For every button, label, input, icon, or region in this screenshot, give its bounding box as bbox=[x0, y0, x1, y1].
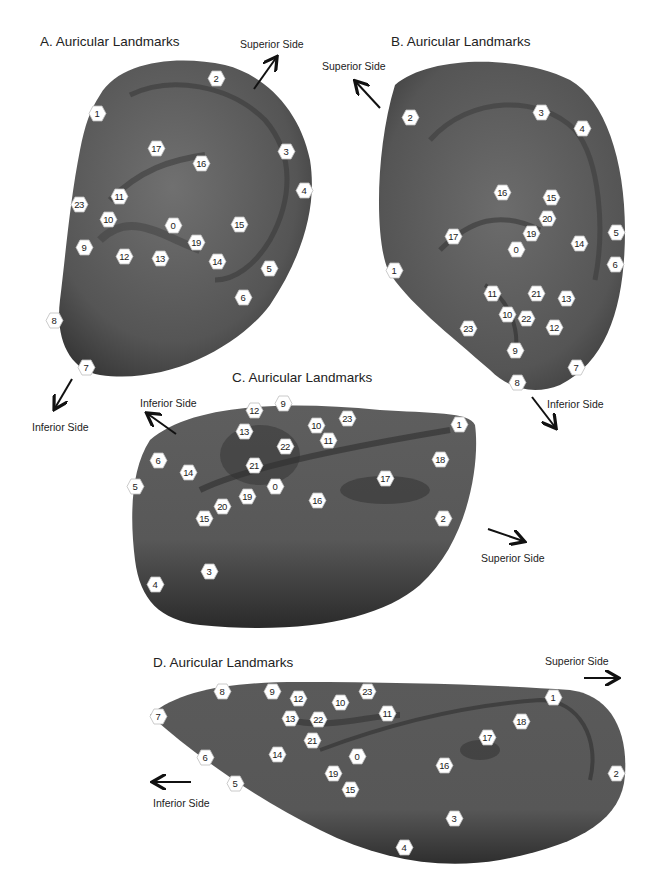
landmark-number: 11 bbox=[378, 705, 397, 722]
landmark-marker-b-5: 5 bbox=[607, 224, 626, 241]
landmark-number: 19 bbox=[238, 488, 257, 505]
landmark-number: 16 bbox=[192, 155, 211, 172]
landmark-marker-b-0: 0 bbox=[507, 241, 526, 258]
landmark-number: 12 bbox=[289, 690, 308, 707]
landmark-number: 21 bbox=[245, 457, 264, 474]
landmark-marker-b-1: 1 bbox=[385, 262, 404, 279]
landmark-number: 14 bbox=[179, 464, 198, 481]
label-inferior-b: Inferior Side bbox=[547, 398, 604, 410]
landmark-marker-b-11: 11 bbox=[483, 285, 502, 302]
landmark-number: 4 bbox=[573, 120, 592, 137]
landmark-marker-c-21: 21 bbox=[245, 457, 264, 474]
landmark-number: 7 bbox=[77, 359, 96, 376]
landmark-number: 5 bbox=[126, 478, 145, 495]
landmark-marker-c-20: 20 bbox=[213, 498, 232, 515]
label-superior-c: Superior Side bbox=[481, 552, 545, 564]
panel-title-d: D. Auricular Landmarks bbox=[153, 655, 293, 670]
landmark-marker-d-0: 0 bbox=[348, 748, 367, 765]
arrow-inferior-a bbox=[55, 379, 72, 408]
landmark-number: 11 bbox=[483, 285, 502, 302]
landmark-number: 0 bbox=[348, 748, 367, 765]
landmark-number: 0 bbox=[164, 217, 183, 234]
landmark-marker-a-13: 13 bbox=[151, 250, 170, 267]
arrow-inferior-c bbox=[148, 414, 176, 434]
landmark-marker-a-1: 1 bbox=[88, 105, 107, 122]
landmark-marker-a-0: 0 bbox=[164, 217, 183, 234]
landmark-marker-d-10: 10 bbox=[331, 694, 350, 711]
landmark-number: 9 bbox=[506, 342, 525, 359]
landmark-marker-b-8: 8 bbox=[508, 374, 527, 391]
landmark-number: 1 bbox=[544, 689, 563, 706]
landmark-marker-c-12: 12 bbox=[245, 402, 264, 419]
landmark-number: 16 bbox=[308, 492, 327, 509]
landmark-number: 15 bbox=[341, 781, 360, 798]
landmark-marker-c-11: 11 bbox=[319, 432, 338, 449]
landmark-number: 8 bbox=[45, 312, 64, 329]
landmark-marker-c-18: 18 bbox=[431, 451, 450, 468]
landmark-number: 9 bbox=[274, 395, 293, 412]
landmark-number: 14 bbox=[268, 746, 287, 763]
landmark-marker-b-14: 14 bbox=[570, 235, 589, 252]
landmark-marker-d-15: 15 bbox=[341, 781, 360, 798]
landmark-marker-a-19: 19 bbox=[187, 234, 206, 251]
landmark-number: 20 bbox=[538, 210, 557, 227]
landmark-number: 16 bbox=[435, 757, 454, 774]
landmark-number: 6 bbox=[196, 749, 215, 766]
landmark-number: 2 bbox=[401, 109, 420, 126]
landmark-marker-a-11: 11 bbox=[110, 188, 129, 205]
landmark-marker-d-21: 21 bbox=[303, 732, 322, 749]
arrow-superior-b bbox=[356, 82, 380, 108]
landmark-number: 11 bbox=[110, 188, 129, 205]
landmark-number: 22 bbox=[309, 711, 328, 728]
landmark-marker-c-23: 23 bbox=[338, 410, 357, 427]
landmark-number: 11 bbox=[319, 432, 338, 449]
landmark-marker-b-19: 19 bbox=[522, 225, 541, 242]
landmark-number: 6 bbox=[606, 256, 625, 273]
landmark-number: 19 bbox=[187, 234, 206, 251]
landmark-number: 15 bbox=[195, 510, 214, 527]
landmark-number: 12 bbox=[245, 402, 264, 419]
landmark-marker-b-10: 10 bbox=[498, 306, 517, 323]
landmark-number: 0 bbox=[507, 241, 526, 258]
landmark-number: 23 bbox=[70, 196, 89, 213]
landmark-number: 1 bbox=[88, 105, 107, 122]
landmark-number: 1 bbox=[450, 416, 469, 433]
landmark-marker-b-2: 2 bbox=[401, 109, 420, 126]
label-superior-b: Superior Side bbox=[322, 60, 386, 72]
landmark-number: 10 bbox=[331, 694, 350, 711]
landmark-number: 2 bbox=[434, 510, 453, 527]
panel-title-c: C. Auricular Landmarks bbox=[232, 370, 372, 385]
landmark-marker-c-22: 22 bbox=[276, 438, 295, 455]
landmark-marker-a-5: 5 bbox=[260, 260, 279, 277]
landmark-number: 4 bbox=[146, 576, 165, 593]
landmark-marker-a-23: 23 bbox=[70, 196, 89, 213]
landmark-marker-c-4: 4 bbox=[146, 576, 165, 593]
landmark-marker-d-13: 13 bbox=[281, 710, 300, 727]
landmark-number: 5 bbox=[607, 224, 626, 241]
landmark-number: 22 bbox=[517, 310, 536, 327]
landmark-marker-b-3: 3 bbox=[532, 104, 551, 121]
landmark-number: 12 bbox=[545, 319, 564, 336]
landmark-marker-a-8: 8 bbox=[45, 312, 64, 329]
label-inferior-c: Inferior Side bbox=[140, 397, 197, 409]
landmark-marker-c-19: 19 bbox=[238, 488, 257, 505]
landmark-marker-d-19: 19 bbox=[324, 765, 343, 782]
panel-title-b: B. Auricular Landmarks bbox=[391, 34, 531, 49]
landmark-marker-a-10: 10 bbox=[99, 211, 118, 228]
landmark-number: 14 bbox=[208, 253, 227, 270]
arrow-superior-c bbox=[488, 529, 523, 541]
landmark-number: 4 bbox=[395, 839, 414, 856]
landmark-marker-b-9: 9 bbox=[506, 342, 525, 359]
landmark-marker-b-17: 17 bbox=[444, 228, 463, 245]
landmark-marker-c-5: 5 bbox=[126, 478, 145, 495]
landmark-marker-a-7: 7 bbox=[77, 359, 96, 376]
landmark-number: 5 bbox=[226, 775, 245, 792]
landmark-marker-a-14: 14 bbox=[208, 253, 227, 270]
landmark-marker-c-2: 2 bbox=[434, 510, 453, 527]
landmark-number: 3 bbox=[277, 143, 296, 160]
landmark-number: 13 bbox=[281, 710, 300, 727]
landmark-number: 16 bbox=[493, 184, 512, 201]
landmark-marker-d-16: 16 bbox=[435, 757, 454, 774]
landmark-number: 13 bbox=[557, 290, 576, 307]
landmark-number: 2 bbox=[607, 765, 626, 782]
